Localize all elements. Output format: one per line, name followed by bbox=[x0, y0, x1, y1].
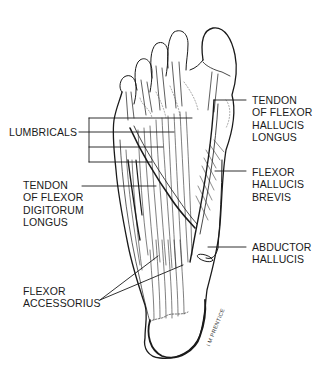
label-tendon-flexor-digitorum-longus: TENDON OF FLEXOR DIGITORUM LONGUS bbox=[23, 179, 84, 229]
toe-3 bbox=[151, 42, 168, 78]
label-flexor-accessorius: FLEXOR ACCESSORIUS bbox=[23, 285, 101, 310]
toe-1-hallux bbox=[190, 60, 203, 70]
toe-5 bbox=[120, 76, 136, 104]
label-lumbricals: LUMBRICALS bbox=[9, 126, 77, 138]
toe-4 bbox=[135, 59, 152, 92]
anatomy-figure: LUMBRICALS TENDON OF FLEXOR DIGITORUM LO… bbox=[0, 0, 316, 373]
label-tendon-flexor-hallucis-longus: TENDON OF FLEXOR HALLUCIS LONGUS bbox=[252, 94, 312, 144]
abductor-hallucis-outline bbox=[206, 160, 222, 259]
fhl-tendon bbox=[190, 100, 214, 262]
toe-2 bbox=[168, 31, 188, 70]
label-flexor-hallucis-brevis: FLEXOR HALLUCIS BREVIS bbox=[252, 166, 304, 203]
label-abductor-hallucis: ABDUCTOR HALLUCIS bbox=[252, 241, 312, 266]
